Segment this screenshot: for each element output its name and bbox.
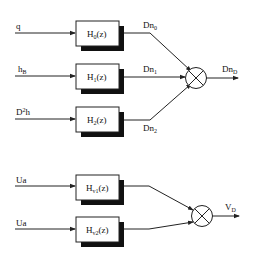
input-label-q: q — [16, 21, 21, 31]
multiplier-junction-icon — [186, 68, 207, 89]
block-h1: H1(z) — [76, 64, 124, 94]
output-label-dnd: DnD — [222, 64, 238, 75]
multiplier-junction-icon — [192, 206, 213, 227]
output-label-vd: VD — [225, 202, 237, 213]
block-h2: H2(z) — [76, 107, 124, 137]
input-label-d2h: D2h — [16, 107, 31, 117]
signal-label-dn1: Dn1 — [143, 64, 157, 75]
signal-line-dn2 — [124, 84, 191, 120]
block-hv2: Hv2(z) — [76, 217, 124, 247]
signal-line-dn0 — [124, 33, 191, 71]
input-label-hb: hB — [18, 64, 27, 75]
svg-text:H2(z): H2(z) — [87, 115, 107, 126]
block-diagram: q hB D2h H0(z) H1(z) H2(z) Dn0 Dn1 Dn2 D… — [0, 0, 253, 259]
signal-line-hv2 — [124, 222, 193, 229]
input-label-ua-1: Ua — [16, 175, 27, 185]
svg-text:H0(z): H0(z) — [87, 29, 107, 40]
signal-line-hv1 — [124, 186, 193, 210]
svg-text:H1(z): H1(z) — [87, 72, 107, 83]
signal-label-dn0: Dn0 — [143, 20, 157, 31]
signal-label-dn2: Dn2 — [143, 123, 157, 134]
block-hv1: Hv1(z) — [76, 175, 124, 205]
input-label-ua-2: Ua — [16, 218, 27, 228]
block-h0: H0(z) — [76, 21, 124, 51]
